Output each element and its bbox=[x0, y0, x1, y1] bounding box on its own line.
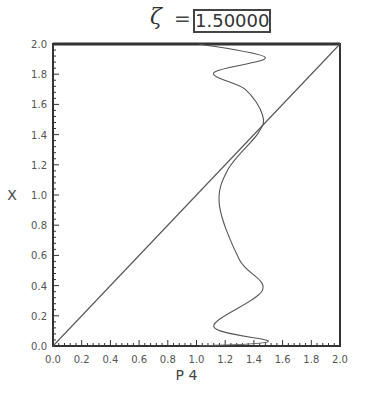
y-tick-label: 1.4 bbox=[31, 130, 47, 141]
y-tick-label: 0.0 bbox=[31, 341, 47, 352]
x-tick-label: 0.2 bbox=[74, 354, 90, 365]
y-tick-label: 0.6 bbox=[31, 250, 47, 261]
y-tick-label: 0.4 bbox=[31, 281, 47, 292]
x-tick-label: 1.8 bbox=[303, 354, 319, 365]
series-diagonal bbox=[53, 44, 340, 346]
series-curve bbox=[199, 44, 268, 346]
y-tick-label: 1.0 bbox=[31, 190, 47, 201]
x-tick-label: 0.0 bbox=[45, 354, 61, 365]
x-tick-label: 1.0 bbox=[189, 354, 205, 365]
y-axis-label: X bbox=[7, 187, 17, 203]
x-tick-label: 1.2 bbox=[217, 354, 233, 365]
y-tick-label: 1.2 bbox=[31, 160, 47, 171]
y-tick-label: 2.0 bbox=[31, 39, 47, 50]
plot-area: 0.00.20.40.60.81.01.21.41.61.82.00.00.20… bbox=[0, 0, 369, 401]
x-tick-label: 1.4 bbox=[246, 354, 262, 365]
y-tick-label: 1.8 bbox=[31, 69, 47, 80]
x-tick-label: 2.0 bbox=[332, 354, 348, 365]
y-tick-label: 1.6 bbox=[31, 99, 47, 110]
x-tick-label: 0.8 bbox=[160, 354, 176, 365]
x-tick-label: 0.4 bbox=[102, 354, 118, 365]
x-tick-label: 1.6 bbox=[275, 354, 291, 365]
x-axis-label: P 4 bbox=[176, 367, 198, 383]
x-tick-label: 0.6 bbox=[131, 354, 147, 365]
y-tick-label: 0.2 bbox=[31, 311, 47, 322]
y-tick-label: 0.8 bbox=[31, 220, 47, 231]
